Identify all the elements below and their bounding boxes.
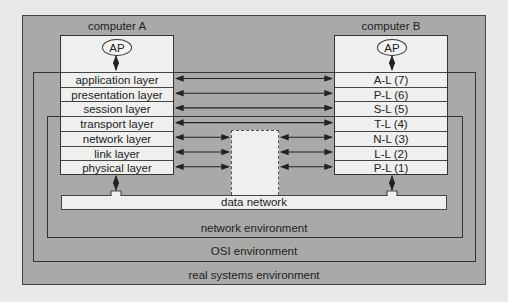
connector-arrows bbox=[0, 0, 508, 302]
